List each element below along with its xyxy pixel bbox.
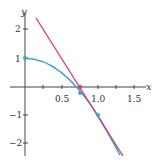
x-tick-label: 1.5 — [127, 94, 142, 104]
x-tick-label: 1.0 — [91, 94, 106, 104]
y-tick-label: −1 — [9, 110, 22, 120]
y-tick-label: 1 — [15, 54, 21, 64]
x-axis-label: x — [146, 81, 152, 92]
y-tick-label: −2 — [9, 138, 22, 148]
point-curve — [78, 91, 82, 95]
y-tick-label: 2 — [15, 24, 21, 34]
x-tick-label: 0.5 — [55, 94, 70, 104]
point-root-estimate — [78, 85, 82, 89]
point-tangency — [96, 113, 100, 117]
newton-method-chart: 0.5 1.0 1.5 2 1 −1 −2 x y — [0, 0, 158, 164]
curve — [25, 58, 120, 155]
y-axis-label: y — [20, 6, 27, 17]
point-start — [23, 56, 27, 60]
